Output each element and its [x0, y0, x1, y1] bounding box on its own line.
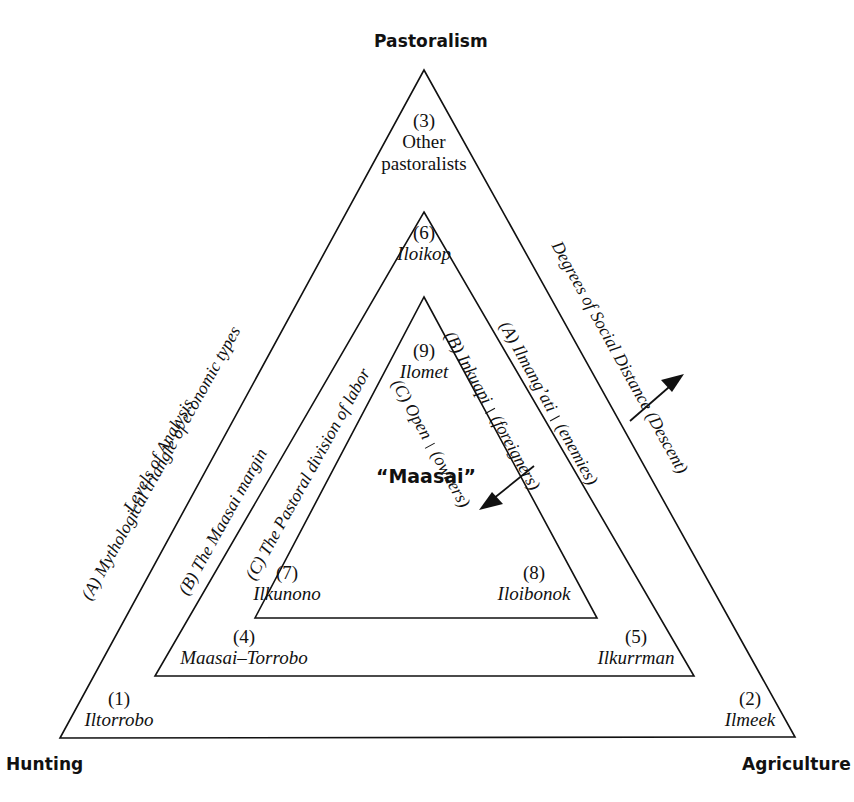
zone-5-name: Ilkurrman — [556, 647, 716, 668]
zone-1-name: Iltorrobo — [58, 709, 180, 730]
zone-2-label: (2) Ilmeek — [694, 688, 806, 731]
zone-4-label: (4) Maasai–Torrobo — [150, 626, 338, 669]
corner-label-agriculture: Agriculture — [742, 755, 851, 774]
corner-label-pastoralism: Pastoralism — [374, 32, 488, 51]
zone-3-number: (3) — [359, 110, 489, 131]
zone-3-name-line1: Other — [359, 131, 489, 153]
zone-3-name-line2: pastoralists — [359, 153, 489, 175]
zone-2-number: (2) — [694, 688, 806, 709]
zone-5-number: (5) — [556, 626, 716, 647]
right-axis-level-a-tick — [550, 415, 560, 421]
zone-1-label: (1) Iltorrobo — [58, 688, 180, 731]
maasai-economic-types-diagram: Pastoralism Hunting Agriculture (3) Othe… — [0, 0, 854, 802]
zone-2-name: Ilmeek — [694, 709, 806, 730]
corner-label-hunting: Hunting — [6, 755, 83, 774]
zone-6-number: (6) — [364, 222, 484, 243]
zone-3-label: (3) Other pastoralists — [359, 110, 489, 175]
zone-7-name: Ilkunono — [222, 583, 352, 604]
zone-1-number: (1) — [58, 688, 180, 709]
center-label-maasai: “Maasai” — [356, 466, 496, 487]
zone-8-number: (8) — [464, 562, 604, 583]
zone-4-name: Maasai–Torrobo — [150, 647, 338, 668]
zone-8-label: (8) Iloibonok — [464, 562, 604, 605]
right-axis-level-c-tick — [425, 443, 435, 449]
zone-4-number: (4) — [150, 626, 338, 647]
zone-6-name: Iloikop — [364, 243, 484, 264]
zone-5-label: (5) Ilkurrman — [556, 626, 716, 669]
right-axis-level-b-tick — [485, 407, 495, 413]
zone-8-name: Iloibonok — [464, 583, 604, 604]
zone-7-label: (7) Ilkunono — [222, 562, 352, 605]
zone-6-label: (6) Iloikop — [364, 222, 484, 265]
